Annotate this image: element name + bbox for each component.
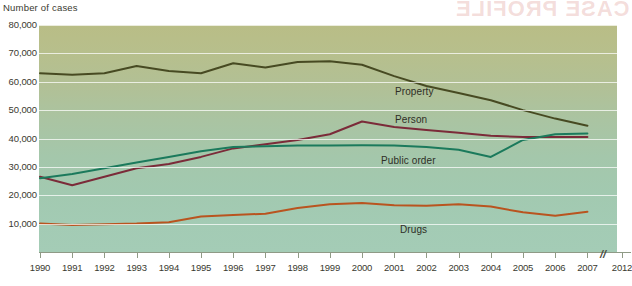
x-tick-label-1996: 1996	[223, 262, 243, 273]
x-tick-1991	[72, 252, 73, 258]
x-tick-label-1992: 1992	[94, 262, 114, 273]
series-line-person	[40, 122, 587, 186]
gridline-20000	[39, 195, 617, 196]
chart-plot-area	[39, 25, 617, 252]
y-tick-label-60000: 60,000	[1, 76, 37, 87]
x-tick-label-2006: 2006	[545, 262, 565, 273]
page-bleed-through-text: CASE PROFILE	[455, 0, 630, 22]
x-tick-2012	[622, 252, 623, 258]
series-line-property	[40, 61, 587, 125]
gridline-30000	[39, 167, 617, 168]
x-tick-2006	[555, 252, 556, 258]
x-tick-label-1997: 1997	[255, 262, 275, 273]
property-label: Property	[395, 86, 434, 97]
x-axis-line-extension	[617, 252, 631, 253]
x-tick-label-1998: 1998	[287, 262, 307, 273]
x-tick-1995	[201, 252, 202, 258]
x-tick-2000	[362, 252, 363, 258]
gridline-50000	[39, 110, 617, 111]
x-tick-1992	[104, 252, 105, 258]
x-tick-label-2001: 2001	[384, 262, 404, 273]
x-tick-label-1990: 1990	[30, 262, 50, 273]
x-tick-2005	[523, 252, 524, 258]
y-tick-label-80000: 80,000	[1, 19, 37, 30]
x-tick-label-2012: 2012	[612, 262, 632, 273]
x-tick-label-2003: 2003	[448, 262, 468, 273]
gridline-40000	[39, 139, 617, 140]
x-tick-label-2007: 2007	[577, 262, 597, 273]
x-axis-line	[39, 252, 617, 253]
drugs-label: Drugs	[400, 224, 427, 235]
x-tick-1998	[298, 252, 299, 258]
x-tick-label-2004: 2004	[481, 262, 501, 273]
gridline-10000	[39, 224, 617, 225]
x-tick-1990	[40, 252, 41, 258]
y-tick-label-30000: 30,000	[1, 161, 37, 172]
y-tick-label-40000: 40,000	[1, 133, 37, 144]
x-tick-1997	[265, 252, 266, 258]
x-tick-label-2005: 2005	[513, 262, 533, 273]
x-tick-label-1999: 1999	[320, 262, 340, 273]
x-tick-2002	[426, 252, 427, 258]
x-tick-2001	[394, 252, 395, 258]
y-tick-label-10000: 10,000	[1, 218, 37, 229]
x-tick-label-1993: 1993	[126, 262, 146, 273]
x-tick-label-1994: 1994	[159, 262, 179, 273]
series-line-drugs	[40, 203, 587, 225]
y-tick-label-50000: 50,000	[1, 104, 37, 115]
x-tick-1996	[233, 252, 234, 258]
x-tick-2004	[491, 252, 492, 258]
x-tick-1994	[169, 252, 170, 258]
x-tick-label-2002: 2002	[416, 262, 436, 273]
x-tick-1999	[330, 252, 331, 258]
y-axis-tick-labels: 80,00070,00060,00050,00040,00030,00020,0…	[0, 0, 37, 286]
y-tick-label-20000: 20,000	[1, 189, 37, 200]
gridline-70000	[39, 53, 617, 54]
x-tick-label-1995: 1995	[191, 262, 211, 273]
x-tick-label-1991: 1991	[62, 262, 82, 273]
public-order-label: Public order	[381, 155, 436, 166]
x-tick-2003	[459, 252, 460, 258]
x-tick-label-2000: 2000	[352, 262, 372, 273]
y-tick-label-70000: 70,000	[1, 47, 37, 58]
x-tick-1993	[137, 252, 138, 258]
gridline-80000	[39, 25, 617, 26]
gridline-60000	[39, 82, 617, 83]
x-tick-2007	[587, 252, 588, 258]
person-label: Person	[395, 114, 427, 125]
axis-break-icon: //	[600, 248, 606, 260]
